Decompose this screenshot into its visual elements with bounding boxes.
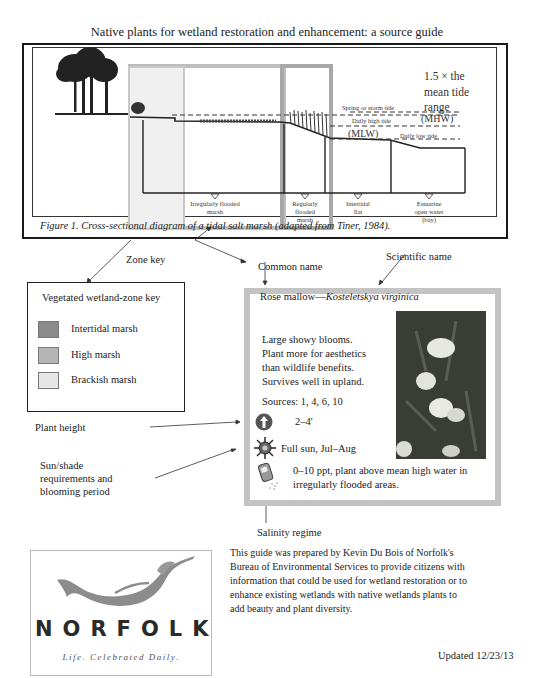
- annotation-salinity: Salinity regime: [257, 526, 321, 539]
- tide-note-line: range: [424, 100, 469, 116]
- tide-note-line: 1.5 × the: [424, 69, 469, 85]
- description-line: Survives well in upland.: [262, 375, 366, 389]
- tide-range-note: 1.5 × the mean tide range: [424, 69, 469, 116]
- annotation-scientific-name: Scientific name: [386, 250, 452, 263]
- trees-icon: [56, 47, 118, 114]
- plant-description: Large showy blooms. Plant more for aesth…: [262, 333, 366, 389]
- plant-sources: Sources: 1, 4, 6, 10: [262, 395, 343, 409]
- zone-label-line: marsh: [180, 208, 250, 216]
- norfolk-wordmark: NORFOLK: [35, 617, 210, 641]
- annotation-line: Sun/shade: [40, 459, 113, 472]
- salinity-line: irregularly flooded areas.: [293, 478, 467, 492]
- swatch-high-marsh: [38, 347, 59, 364]
- plant-name-line: Rose mallow—Kosteletskya virginica: [260, 290, 419, 304]
- key-label-intertidal: Intertidal marsh: [71, 323, 138, 334]
- plant-photo: [396, 311, 486, 459]
- zone-label-line: flat: [338, 208, 378, 216]
- swatch-intertidal-marsh: [38, 321, 59, 338]
- description-line: Plant more for aesthetics: [262, 347, 366, 361]
- credit-text: This guide was prepared by Kevin Du Bois…: [230, 546, 470, 616]
- mermaid-logo-icon: [45, 553, 205, 613]
- zone-key-title: Vegetated wetland-zone key: [42, 292, 160, 303]
- tide-label-spring: Spring or storm tide: [342, 104, 394, 112]
- common-name: Rose mallow: [260, 291, 315, 302]
- scientific-name: Kosteletskya virginica: [326, 291, 419, 302]
- annotation-line: blooming period: [40, 485, 113, 498]
- tide-label-daily-high: Daily high tide: [352, 117, 391, 125]
- sun-requirement: Full sun, Jul–Aug: [281, 442, 356, 456]
- zone-label-line: (bay): [404, 216, 454, 224]
- annotation-plant-height: Plant height: [35, 421, 85, 434]
- zone-label-line: flooded: [285, 208, 325, 216]
- norfolk-tagline: Life. Celebrated Daily.: [30, 652, 212, 662]
- salinity-regime: 0–10 ppt, plant above mean high water in…: [293, 464, 467, 492]
- salinity-line: 0–10 ppt, plant above mean high water in: [293, 464, 467, 478]
- tide-label-mlw: (MLW): [348, 128, 378, 139]
- tide-label-daily-low: Daily low tide: [400, 132, 437, 140]
- description-line: than wildlife benefits.: [262, 361, 366, 375]
- tide-note-line: mean tide: [424, 85, 469, 101]
- figure-caption: Figure 1. Cross-sectional diagram of a t…: [40, 220, 390, 231]
- plant-height-icon: [255, 413, 273, 431]
- zone-label-line: Irregularly flooded: [180, 200, 250, 208]
- key-label-high: High marsh: [71, 349, 120, 360]
- description-line: Large showy blooms.: [262, 333, 366, 347]
- updated-date: Updated 12/23/13: [438, 650, 514, 661]
- annotation-zone-key: Zone key: [126, 253, 165, 266]
- zone-label-irregular: Irregularly flooded marsh: [180, 200, 250, 216]
- key-label-brackish: Brackish marsh: [71, 374, 137, 385]
- swatch-brackish-marsh: [38, 372, 59, 389]
- zone-label-line: Regularly: [285, 200, 325, 208]
- rose-mallow-photo-icon: [396, 311, 486, 459]
- plant-height-value: 2–4': [295, 415, 313, 429]
- annotation-common-name: Common name: [258, 260, 322, 273]
- zone-label-open-water: Estuarine open water (bay): [404, 200, 454, 223]
- sun-icon: [254, 437, 276, 459]
- zone-label-line: Intertidal: [338, 200, 378, 208]
- zone-label-line: open water: [404, 208, 454, 216]
- salt-shaker-icon: [258, 463, 278, 491]
- annotation-sun-shade: Sun/shade requirements and blooming peri…: [40, 459, 113, 498]
- zone-label-intertidal-flat: Intertidal flat: [338, 200, 378, 216]
- zone-label-line: Estuarine: [404, 200, 454, 208]
- name-separator: —: [315, 291, 326, 302]
- annotation-line: requirements and: [40, 472, 113, 485]
